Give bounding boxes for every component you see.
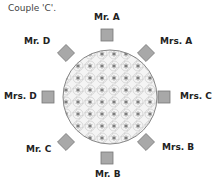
- seat-mr-d: [58, 45, 75, 62]
- label-mrs-c: Mrs. C: [180, 91, 212, 101]
- seat-mr-c: [58, 134, 75, 151]
- seat-mr-a: [101, 29, 113, 41]
- table: [63, 50, 157, 144]
- label-mrs-b: Mrs. B: [162, 142, 194, 152]
- seat-mrs-c: [158, 91, 170, 103]
- label-mr-c: Mr. C: [26, 144, 51, 154]
- seat-mr-b: [101, 152, 113, 164]
- seat-mrs-d: [42, 91, 54, 103]
- seat-mrs-b: [138, 134, 155, 151]
- seat-mrs-a: [138, 45, 155, 62]
- label-mr-b: Mr. B: [95, 169, 121, 179]
- label-mrs-a: Mrs. A: [160, 36, 192, 46]
- label-mrs-d: Mrs. D: [4, 91, 37, 101]
- label-mr-d: Mr. D: [24, 36, 50, 46]
- label-mr-a: Mr. A: [94, 12, 120, 22]
